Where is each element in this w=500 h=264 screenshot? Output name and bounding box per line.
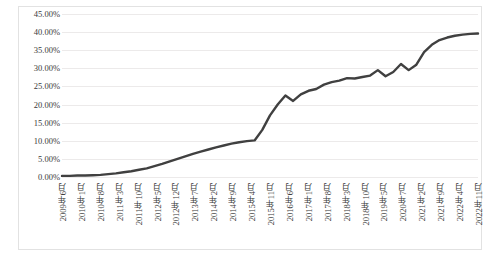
x-axis-tick-label: 2012年5月 bbox=[152, 182, 164, 221]
x-axis-tick-label: 2017年1月 bbox=[303, 182, 315, 221]
x-axis-tick-label: 2014年9月 bbox=[227, 182, 239, 221]
chart-container: 0.00%5.00%10.00%15.00%20.00%25.00%30.00%… bbox=[0, 0, 500, 264]
x-axis-tick-label: 2010年8月 bbox=[95, 182, 107, 221]
x-axis-tick-label: 2018年3月 bbox=[341, 182, 353, 221]
x-axis-tick-label: 2021年2月 bbox=[416, 182, 428, 221]
x-axis-tick-label: 2011年10月 bbox=[133, 182, 145, 225]
x-axis-tick-label: 2009年6月 bbox=[57, 182, 69, 221]
x-axis-tick-label: 2010年1月 bbox=[76, 182, 88, 221]
x-axis-tick-label: 2013年7月 bbox=[189, 182, 201, 221]
x-axis-tick-label: 2020年7月 bbox=[397, 182, 409, 221]
x-axis-tick-label: 2016年6月 bbox=[284, 182, 296, 221]
x-axis-tick-label: 2022年4月 bbox=[454, 182, 466, 221]
x-axis-tick-label: 2015年4月 bbox=[246, 182, 258, 221]
plot-area: 0.00%5.00%10.00%15.00%20.00%25.00%30.00%… bbox=[0, 0, 500, 264]
x-axis-tick-label: 2022年11月 bbox=[473, 182, 485, 225]
x-axis-tick-label: 2014年2月 bbox=[208, 182, 220, 221]
x-axis-tick-label: 2015年11月 bbox=[265, 182, 277, 225]
x-axis-tick-label: 2012年12月 bbox=[170, 182, 182, 226]
series-line bbox=[62, 34, 478, 176]
x-axis-tick-label: 2019年5月 bbox=[378, 182, 390, 221]
x-axis-tick-label: 2011年3月 bbox=[114, 182, 126, 221]
x-axis-tick-label: 2018年10月 bbox=[360, 182, 372, 226]
x-axis-tick-label: 2021年9月 bbox=[435, 182, 447, 221]
x-axis-tick-label: 2017年8月 bbox=[322, 182, 334, 221]
line-series bbox=[0, 0, 500, 264]
